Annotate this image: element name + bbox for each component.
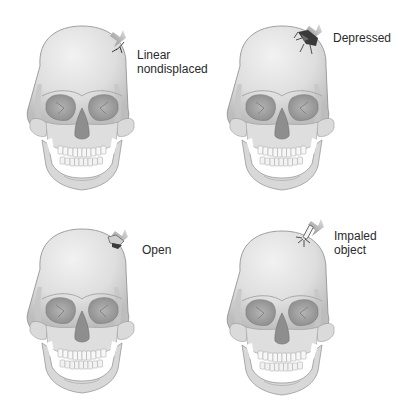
skull-illustration	[0, 0, 200, 207]
label-depressed: Depressed	[333, 31, 391, 45]
panel-depressed: Depressed	[200, 0, 400, 207]
label-impaled-object: Impaled object	[334, 229, 377, 257]
panel-open: Open	[0, 207, 200, 414]
panel-linear-nondisplaced: Linear nondisplaced	[0, 0, 200, 207]
panel-impaled-object: Impaled object	[200, 207, 400, 414]
skull-illustration	[0, 207, 200, 414]
label-open: Open	[142, 243, 171, 257]
label-linear-nondisplaced: Linear nondisplaced	[137, 48, 208, 76]
